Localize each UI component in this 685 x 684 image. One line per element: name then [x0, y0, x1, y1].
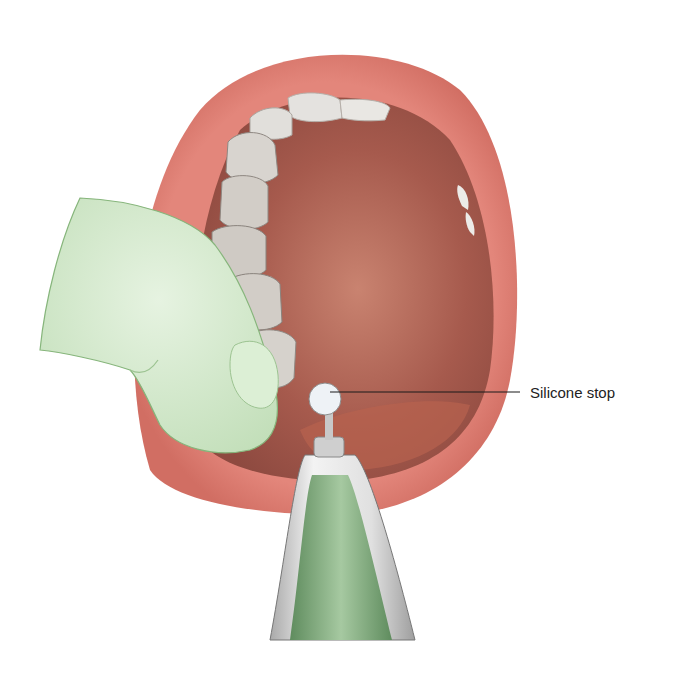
- label-silicone-stop: Silicone stop: [530, 384, 615, 401]
- silicone-stop: [309, 383, 341, 415]
- mouth-illustration: [0, 0, 685, 684]
- illustration: Silicone stop: [0, 0, 685, 684]
